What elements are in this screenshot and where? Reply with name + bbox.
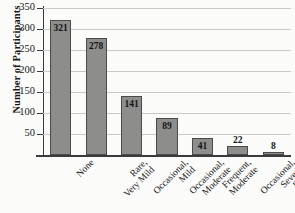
x-axis-category-label: Frequent,Moderate <box>221 158 260 197</box>
x-axis-category-line: None <box>75 158 96 179</box>
x-axis-line <box>36 155 291 157</box>
y-axis-tick-label: 350 <box>1 2 35 13</box>
y-axis-tick-label: 300 <box>1 23 35 34</box>
bar-chart: Number of Participants 50100150200250300… <box>0 0 295 213</box>
y-axis-tick-label: 250 <box>1 44 35 55</box>
y-axis-tick <box>37 29 43 30</box>
plot-area: 501001502002503003503212781418941228 <box>43 8 291 155</box>
bar: 8 <box>263 152 284 155</box>
gridline <box>43 71 291 72</box>
bar-value-label: 41 <box>193 142 212 152</box>
x-axis-category-label: Occasional,Severe <box>259 158 295 203</box>
gridline <box>43 113 291 114</box>
gridline <box>43 29 291 30</box>
bar: 278 <box>86 38 107 155</box>
gridline <box>43 92 291 93</box>
y-axis-tick <box>37 134 43 135</box>
gridline <box>43 8 291 9</box>
y-axis-tick <box>37 8 43 9</box>
gridline <box>43 50 291 51</box>
y-axis-tick <box>37 71 43 72</box>
bar: 89 <box>156 118 177 155</box>
y-axis-tick-label: 100 <box>1 107 35 118</box>
y-axis-tick <box>37 113 43 114</box>
bar: 321 <box>50 20 71 155</box>
bar-value-label: 141 <box>122 100 141 110</box>
bar-value-label: 321 <box>51 24 70 34</box>
y-axis-tick <box>37 50 43 51</box>
y-axis-tick <box>37 92 43 93</box>
y-axis-tick-label: 150 <box>1 86 35 97</box>
bar: 41 <box>192 138 213 155</box>
bar: 141 <box>121 96 142 155</box>
y-axis-tick-label: 200 <box>1 65 35 76</box>
y-axis-title: Number of Participants <box>11 0 22 120</box>
bar-value-label: 278 <box>87 42 106 52</box>
x-axis-labels: NoneRare,Very MildOccasional,MildOccasio… <box>43 158 291 213</box>
bar-value-label: 89 <box>157 122 176 132</box>
bar-value-label: 8 <box>264 142 283 152</box>
y-axis-tick <box>37 155 43 156</box>
x-axis-category-label: Occasional,Mild <box>152 158 197 203</box>
bar-value-label: 22 <box>228 136 247 146</box>
y-axis-tick-label: 50 <box>1 128 35 139</box>
bar: 22 <box>227 146 248 155</box>
x-axis-category-label: None <box>75 158 96 179</box>
x-axis-category-label: Rare,Very Mild <box>115 158 156 199</box>
